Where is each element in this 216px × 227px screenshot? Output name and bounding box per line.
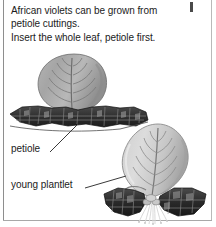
caption-line-1: African violets can be grown from: [11, 4, 201, 17]
upper-leaf: [38, 54, 107, 110]
frame-border-left: [3, 0, 4, 221]
lower-cutting-illustration: [100, 120, 212, 225]
leader-line-young-plantlet: [84, 174, 128, 194]
callout-label-young-plantlet: young plantlet: [11, 179, 73, 190]
caption-text: African violets can be grown from petiol…: [11, 4, 201, 44]
caption-line-3: Insert the whole leaf, petiole first.: [11, 31, 201, 44]
callout-label-petiole: petiole: [11, 143, 40, 154]
leader-line-petiole: [48, 122, 82, 154]
caption-line-2: petiole cuttings.: [11, 17, 201, 30]
figure-panel: African violets can be grown from petiol…: [0, 0, 216, 227]
